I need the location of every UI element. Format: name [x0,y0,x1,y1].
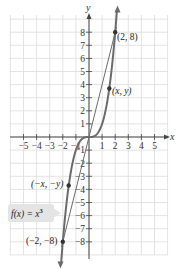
y-tick-label: 8 [80,28,85,38]
cubic-function-graph: −5−4−3−2−11234587654321−1−2−3−4−5−6−7−8 … [0,0,182,269]
point-label-2-8: (2, 8) [117,32,138,43]
y-tick-label: −5 [75,198,85,208]
curve-arrow-up-icon [115,5,121,12]
x-tick-label: 2 [113,141,118,151]
x-tick-label: 5 [152,141,157,151]
x-tick-label: 3 [126,141,131,151]
x-tick-label: −2 [58,141,68,151]
y-tick-label: −8 [75,237,85,247]
point-label-neg-x-neg-y: (−x, −y) [31,179,63,190]
y-tick-label: 2 [80,106,85,116]
svg-text:f(x) = x3: f(x) = x3 [11,207,44,220]
x-axis-label: x [169,131,175,142]
y-axis-label: y [85,2,91,13]
x-tick-label: −5 [18,141,28,151]
data-point [61,240,65,244]
y-tick-label: 6 [80,54,85,64]
x-tick-label: 1 [100,141,105,151]
function-label: f(x) = x [11,209,40,220]
function-label-callout: f(x) = x3 [8,204,61,222]
data-point [66,183,70,187]
y-tick-label: 5 [80,67,85,77]
point-label-x-y: (x, y) [112,86,132,97]
curve-arrow-down-icon [57,262,63,269]
y-tick-label: 7 [80,41,85,51]
x-tick-label: 4 [139,141,144,151]
y-axis-arrow-icon [87,13,92,19]
y-tick-label: 1 [80,119,85,129]
y-tick-label: 3 [80,93,85,103]
y-tick-label: −7 [75,224,85,234]
x-tick-label: −3 [45,141,55,151]
data-point [107,86,111,90]
point-label-neg2-neg8: (−2, −8) [26,236,57,247]
y-tick-label: −6 [75,211,85,221]
x-tick-label: −4 [32,141,42,151]
y-tick-label: 4 [80,80,85,90]
